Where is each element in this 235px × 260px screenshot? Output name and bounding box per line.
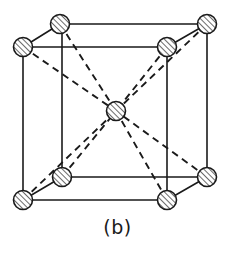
diagonal-front-bottom-left-to-center [23, 111, 116, 200]
diagonal-front-bottom-right-to-center [116, 111, 167, 200]
bcc-unit-cell-figure: (b) [0, 0, 235, 260]
diagonal-back-bottom-left-to-center [62, 111, 116, 177]
diagonal-front-top-right-to-center [116, 47, 167, 111]
atom-corner-front-bottom-right [158, 191, 177, 210]
atom-corner-front-top-left [14, 38, 33, 57]
atom-body-center [107, 102, 126, 121]
diagonal-back-top-right-to-center [116, 24, 207, 111]
atom-corner-back-bottom-right [198, 168, 217, 187]
atom-corner-back-top-right [198, 15, 217, 34]
diagonal-front-top-left-to-center [23, 47, 116, 111]
diagonal-back-bottom-right-to-center [116, 111, 207, 177]
figure-caption: (b) [0, 216, 235, 238]
diagonal-back-top-left-to-center [60, 24, 116, 111]
atom-corner-front-top-right [158, 38, 177, 57]
atom-corner-back-top-left [51, 15, 70, 34]
atom-corner-front-bottom-left [14, 191, 33, 210]
atom-corner-back-bottom-left [53, 168, 72, 187]
